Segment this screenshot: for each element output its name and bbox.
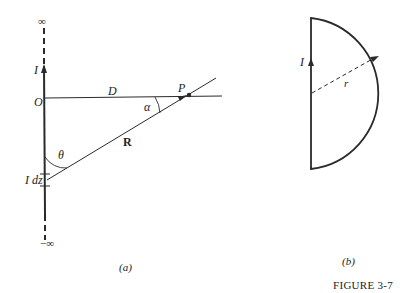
current-arrow-icon bbox=[41, 64, 47, 73]
wire-solid bbox=[44, 66, 45, 215]
semicircle-loop bbox=[311, 18, 378, 169]
label-distance-d: D bbox=[108, 85, 117, 97]
label-current-element: I dz bbox=[25, 174, 43, 186]
label-radius-r: r bbox=[344, 78, 348, 89]
label-theta: θ bbox=[58, 149, 64, 161]
label-current-b: I bbox=[300, 56, 304, 68]
figure-caption: FIGURE 3-7 bbox=[333, 279, 393, 291]
label-infinity-top: ∞ bbox=[38, 16, 46, 27]
figure-canvas bbox=[0, 0, 404, 293]
vector-r-line bbox=[47, 78, 216, 180]
label-origin: O bbox=[34, 96, 43, 108]
point-p-dot bbox=[187, 93, 191, 97]
panel-a-diagram bbox=[40, 28, 222, 240]
label-infinity-bottom: −∞ bbox=[40, 238, 54, 249]
line-d bbox=[45, 96, 222, 98]
alpha-arc bbox=[155, 97, 160, 113]
label-point-p: P bbox=[178, 82, 185, 94]
panel-b-diagram bbox=[308, 18, 379, 169]
loop-current-arrow-icon bbox=[308, 58, 314, 66]
label-vector-r: R bbox=[123, 136, 132, 148]
label-current-a: I bbox=[34, 64, 38, 76]
sublabel-b: (b) bbox=[342, 256, 355, 267]
label-alpha: α bbox=[144, 101, 150, 113]
sublabel-a: (a) bbox=[119, 262, 132, 273]
